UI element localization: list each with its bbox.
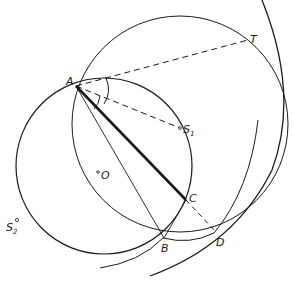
label-o: O — [101, 169, 110, 182]
label-d: D — [216, 236, 224, 249]
segment-as1 — [76, 86, 180, 128]
point-s2-marker — [15, 218, 18, 221]
outer-arc — [150, 0, 284, 276]
label-a: A — [65, 75, 74, 88]
label-c: C — [189, 192, 197, 205]
arc-bd — [163, 120, 258, 241]
angle-arc-outer — [104, 78, 109, 104]
arc-bottom-left — [100, 238, 163, 268]
label-s2: S2 — [6, 221, 18, 236]
label-s1: S1 — [183, 123, 194, 138]
point-s1-marker — [179, 127, 182, 130]
segment-ac — [76, 86, 186, 200]
geometry-diagram: A T S1 O S2 C B D — [0, 0, 294, 282]
circle-o — [16, 78, 192, 254]
segment-at — [76, 40, 248, 86]
label-t: T — [250, 33, 258, 46]
point-o-marker — [97, 171, 100, 174]
large-circle — [72, 16, 288, 232]
label-b: B — [161, 242, 169, 255]
